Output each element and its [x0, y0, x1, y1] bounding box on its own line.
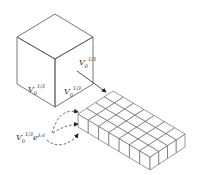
dashed-arrow-middle [53, 124, 78, 133]
cube-top-face [17, 14, 93, 59]
dashed-arrow-top [52, 111, 78, 133]
dashed-arrows [47, 111, 78, 145]
growth-label: V01/3eλ₀t [16, 134, 45, 142]
cube-left-face-label: V01/3 [28, 86, 45, 94]
grid-slab [78, 91, 185, 170]
cube-side-label: V01/3 [79, 59, 96, 67]
cube-right-face-label: V01/3 [64, 88, 81, 96]
cube-right-face [55, 37, 93, 107]
dashed-arrow-bottom [47, 134, 78, 145]
solid-arrow [77, 71, 106, 92]
cube-left-face [17, 37, 55, 107]
